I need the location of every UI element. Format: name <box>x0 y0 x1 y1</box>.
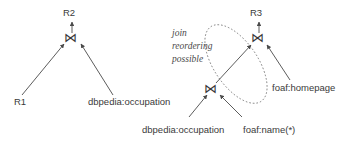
right-upper-join-operator: ⋈ <box>251 31 264 44</box>
left-edge-occupation-to-join <box>81 44 113 95</box>
join-reordering-highlight-ellipse <box>193 14 280 113</box>
annotation-line-1: join <box>172 27 187 40</box>
annotation-line-2: reordering <box>172 40 212 53</box>
right-edge-occupation-to-lowerjoin <box>189 95 207 117</box>
right-leaf-dbpedia-occupation: dbpedia:occupation <box>142 125 224 135</box>
left-root-label: R2 <box>63 8 75 18</box>
right-edge-name-to-lowerjoin <box>220 95 242 117</box>
left-leaf-dbpedia-occupation: dbpedia:occupation <box>88 97 170 107</box>
left-edge-r1-to-join <box>22 44 64 95</box>
diagram-vector-layer <box>0 0 346 142</box>
right-lower-join-operator: ⋈ <box>204 82 217 95</box>
figure-canvas: R2 ⋈ R1 dbpedia:occupation R3 ⋈ ⋈ dbpedi… <box>0 0 346 142</box>
annotation-line-3: possible <box>172 53 203 66</box>
right-root-label: R3 <box>250 8 262 18</box>
left-join-operator: ⋈ <box>64 31 77 44</box>
right-edge-homepage-to-upperjoin <box>267 45 290 80</box>
right-leaf-foaf-homepage: foaf:homepage <box>272 83 335 93</box>
right-leaf-foaf-name: foaf:name(*) <box>243 125 295 135</box>
right-edge-lowerjoin-to-upperjoin <box>216 45 251 83</box>
left-leaf-r1: R1 <box>14 97 26 107</box>
